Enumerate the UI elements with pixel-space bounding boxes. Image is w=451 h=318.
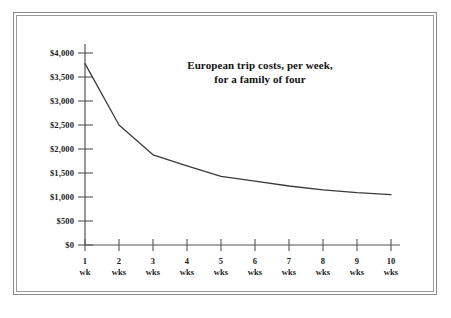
x-tick-unit-2: wks	[102, 267, 136, 278]
y-tick-label-1500: $1,500	[28, 168, 74, 178]
x-tick-label-2: 2wks	[102, 256, 136, 278]
x-tick-number-9: 9	[340, 256, 374, 267]
x-tick-number-2: 2	[102, 256, 136, 267]
x-tick-number-10: 10	[374, 256, 408, 267]
x-tick-label-7: 7wks	[272, 256, 306, 278]
x-tick-number-3: 3	[136, 256, 170, 267]
x-tick-unit-3: wks	[136, 267, 170, 278]
x-tick-label-9: 9wks	[340, 256, 374, 278]
x-tick-unit-7: wks	[272, 267, 306, 278]
x-tick-label-10: 10wks	[374, 256, 408, 278]
x-tick-unit-10: wks	[374, 267, 408, 278]
x-tick-number-8: 8	[306, 256, 340, 267]
x-tick-number-6: 6	[238, 256, 272, 267]
x-tick-number-1: 1	[68, 256, 102, 267]
x-tick-label-3: 3wks	[136, 256, 170, 278]
x-tick-unit-1: wk	[68, 267, 102, 278]
x-tick-number-4: 4	[170, 256, 204, 267]
x-tick-unit-9: wks	[340, 267, 374, 278]
y-tick-label-3500: $3,500	[28, 72, 74, 82]
y-tick-label-2000: $2,000	[28, 144, 74, 154]
x-tick-number-7: 7	[272, 256, 306, 267]
y-tick-label-0: $0	[28, 240, 74, 250]
y-tick-label-4000: $4,000	[28, 48, 74, 58]
y-tick-label-3000: $3,000	[28, 96, 74, 106]
y-tick-label-500: $500	[28, 216, 74, 226]
y-tick-label-1000: $1,000	[28, 192, 74, 202]
x-tick-label-5: 5wks	[204, 256, 238, 278]
x-tick-unit-8: wks	[306, 267, 340, 278]
chart-axes	[85, 44, 400, 245]
x-tick-label-8: 8wks	[306, 256, 340, 278]
y-tick-label-2500: $2,500	[28, 120, 74, 130]
x-tick-label-6: 6wks	[238, 256, 272, 278]
cost-series-line	[85, 64, 391, 195]
x-tick-label-4: 4wks	[170, 256, 204, 278]
x-tick-number-5: 5	[204, 256, 238, 267]
x-tick-unit-5: wks	[204, 267, 238, 278]
x-tick-label-1: 1wk	[68, 256, 102, 278]
x-tick-unit-6: wks	[238, 267, 272, 278]
x-tick-unit-4: wks	[170, 267, 204, 278]
